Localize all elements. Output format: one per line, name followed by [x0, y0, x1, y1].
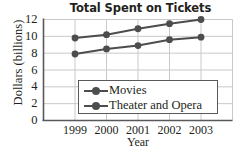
legend-label-movies: Movies — [109, 84, 147, 97]
data-point — [166, 36, 173, 43]
data-point — [103, 46, 110, 53]
y-tick-label: 10 — [18, 30, 38, 42]
y-tick-label: 8 — [18, 47, 38, 59]
legend-item-movies: Movies — [83, 83, 147, 98]
legend-label-theater-and-opera: Theater and Opera — [109, 99, 202, 112]
x-tick-label: 1999 — [58, 124, 92, 136]
data-point — [166, 20, 173, 27]
legend-item-theater-and-opera: Theater and Opera — [83, 98, 202, 113]
x-tick-label: 2003 — [184, 124, 218, 136]
x-tick-label: 2000 — [90, 124, 124, 136]
x-tick-label: 2001 — [121, 124, 155, 136]
y-tick-label: 6 — [18, 64, 38, 76]
data-point — [135, 42, 142, 49]
data-point — [103, 31, 110, 38]
line-marker-icon — [83, 85, 109, 96]
ticket-spending-line-chart: Total Spent on Tickets Dollars (billions… — [0, 0, 235, 150]
x-tick-label: 2002 — [153, 124, 187, 136]
plot-area: 024681012 19992000200120022003 — [0, 0, 235, 150]
data-point — [72, 35, 79, 42]
data-point — [198, 16, 205, 23]
y-tick-label: 4 — [18, 80, 38, 92]
line-marker-icon — [83, 100, 109, 111]
chart-legend: Movies Theater and Opera — [78, 80, 218, 114]
data-point — [135, 25, 142, 32]
data-point — [72, 51, 79, 58]
x-axis-label: Year — [43, 135, 233, 150]
y-tick-label: 2 — [18, 97, 38, 109]
y-tick-label: 0 — [18, 114, 38, 126]
y-tick-label: 12 — [18, 13, 38, 25]
data-point — [198, 34, 205, 41]
